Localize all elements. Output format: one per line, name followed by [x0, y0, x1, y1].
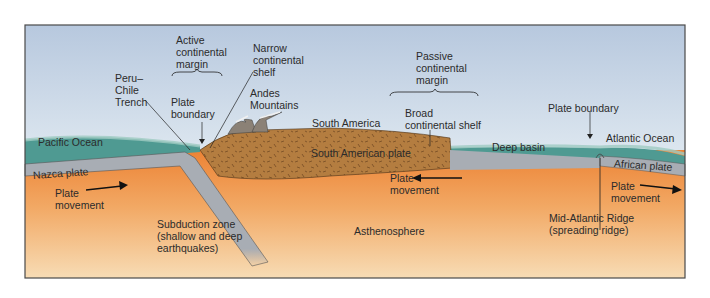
label-active-margin: Active continental margin	[176, 34, 227, 70]
label-plate-movement-right: Plate movement	[611, 180, 660, 204]
label-andes: Andes Mountains	[250, 87, 298, 111]
label-plate-boundary-right: Plate boundary	[548, 102, 619, 114]
label-asthenosphere: Asthenosphere	[354, 225, 425, 237]
label-atlantic-ocean: Atlantic Ocean	[606, 132, 674, 144]
label-pacific-ocean: Pacific Ocean	[38, 136, 103, 148]
label-deep-basin: Deep basin	[492, 141, 545, 153]
label-passive-margin: Passive continental margin	[416, 50, 467, 86]
label-plate-movement-center: Plate movement	[390, 172, 439, 196]
label-south-american-plate: South American plate	[311, 147, 411, 159]
label-broad-shelf: Broad continental shelf	[405, 107, 481, 131]
label-plate-movement-left: Plate movement	[55, 187, 104, 211]
label-mid-atlantic-ridge: Mid-Atlantic Ridge (spreading ridge)	[549, 212, 634, 236]
label-plate-boundary-left: Plate boundary	[171, 96, 215, 120]
label-trench: Peru– Chile Trench	[115, 72, 147, 108]
label-south-america: South America	[312, 117, 380, 129]
plate-tectonics-diagram: Active continental margin Narrow contine…	[0, 0, 710, 298]
label-narrow-shelf: Narrow continental shelf	[253, 42, 304, 78]
label-subduction-zone: Subduction zone (shallow and deep earthq…	[157, 218, 242, 254]
